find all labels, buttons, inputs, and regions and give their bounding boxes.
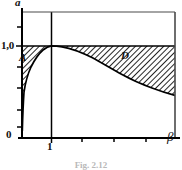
y-axis-label: a (15, 0, 21, 8)
figure-plot (0, 0, 182, 170)
region-label-d: D (121, 50, 129, 61)
x-axis-label: β (167, 130, 173, 143)
hatched-region (22, 46, 175, 110)
y-tick-label-one: 1,0 (1, 40, 14, 51)
x-tick-label-one: 1 (47, 141, 53, 152)
origin-label: 0 (6, 129, 12, 140)
figure-caption: Fig. 2.12 (0, 160, 182, 170)
region-label-a: A (19, 52, 26, 63)
